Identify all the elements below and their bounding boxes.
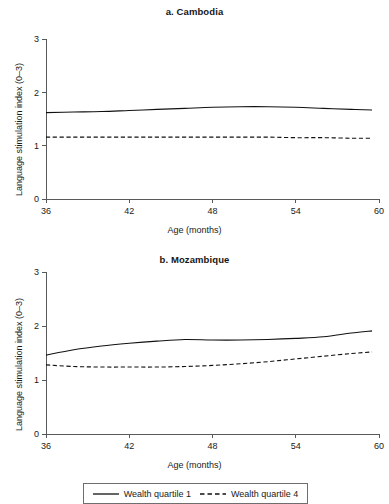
y-tick-label: 2 [34, 321, 39, 331]
x-tick-label: 60 [374, 206, 384, 216]
series-line-quartile-1 [46, 107, 372, 113]
panel-a-svg: 01233642485460 [0, 0, 389, 248]
y-tick-label: 1 [34, 141, 39, 151]
x-tick-label: 60 [374, 441, 384, 451]
panel-b-x-axis-label: Age (months) [0, 460, 389, 470]
panel-a-y-axis-label: Language stimulation index (0–3) [14, 63, 24, 196]
panel-cambodia: a. Cambodia 01233642485460 Language stim… [0, 0, 389, 248]
x-tick-label: 36 [41, 206, 51, 216]
x-tick-label: 48 [207, 206, 217, 216]
y-tick-label: 2 [34, 88, 39, 98]
x-tick-label: 48 [207, 441, 217, 451]
series-line-quartile-1 [46, 331, 372, 355]
legend-label-quartile-4: Wealth quartile 4 [231, 489, 298, 499]
panel-b-y-axis-label: Language stimulation index (0–3) [14, 298, 24, 431]
x-tick-label: 54 [291, 206, 301, 216]
panel-a-plot-area: 01233642485460 [0, 0, 389, 248]
series-line-quartile-4 [46, 352, 372, 367]
panel-b-plot-area: 01233642485460 [0, 248, 389, 464]
x-tick-label: 54 [291, 441, 301, 451]
y-tick-label: 0 [34, 194, 39, 204]
series-line-quartile-4 [46, 137, 372, 138]
x-tick-label: 42 [124, 206, 134, 216]
panel-a-x-axis-label: Age (months) [0, 225, 389, 235]
y-tick-label: 3 [34, 267, 39, 277]
chart-legend: Wealth quartile 1 Wealth quartile 4 [83, 483, 308, 504]
legend-solid-line-swatch [93, 490, 119, 498]
panel-mozambique: b. Mozambique 01233642485460 Language st… [0, 248, 389, 464]
legend-dashed-line-swatch [200, 490, 226, 498]
legend-label-quartile-1: Wealth quartile 1 [124, 489, 191, 499]
legend-item-quartile-4: Wealth quartile 4 [200, 489, 298, 499]
panel-b-svg: 01233642485460 [0, 248, 389, 464]
x-tick-label: 36 [41, 441, 51, 451]
y-tick-label: 3 [34, 34, 39, 44]
y-tick-label: 0 [34, 429, 39, 439]
y-tick-label: 1 [34, 375, 39, 385]
legend-item-quartile-1: Wealth quartile 1 [93, 489, 191, 499]
x-tick-label: 42 [124, 441, 134, 451]
